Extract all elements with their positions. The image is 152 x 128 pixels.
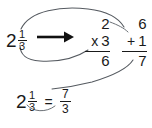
improper-fraction-numerator: 7: [62, 88, 69, 100]
multiply-operand: 3: [101, 33, 110, 50]
math-diagram-canvas: 2 1 3 2 x 3 6 6 + 1 7 2: [0, 0, 152, 128]
multiply-operation-row: x 3: [80, 33, 110, 50]
result-mixed-fraction: 1 3: [28, 90, 37, 113]
multiplication-column: 2 x 3 6: [80, 16, 110, 70]
add-operation-row: + 1: [117, 33, 147, 50]
right-arrow-icon: [37, 32, 74, 43]
addition-column: 6 + 1 7: [117, 16, 147, 70]
result-mixed-denominator: 3: [28, 102, 36, 113]
multiply-result: 6: [80, 53, 110, 70]
result-mixed-numerator: 1: [28, 90, 36, 101]
equals-sign: =: [45, 95, 53, 109]
multiply-top-number: 2: [80, 16, 110, 33]
add-result: 7: [117, 53, 147, 70]
add-top-number: 6: [117, 16, 147, 33]
improper-fraction: 7 3: [60, 88, 71, 115]
improper-fraction-denominator: 3: [62, 103, 69, 115]
multiply-operator: x: [91, 34, 98, 50]
add-operator: +: [127, 34, 135, 50]
result-equation: 2 1 3 = 7 3: [16, 88, 71, 115]
result-mixed-whole: 2: [16, 92, 27, 111]
add-operand: 1: [138, 33, 147, 50]
